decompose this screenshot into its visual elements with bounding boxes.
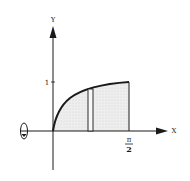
y-axis-arrow-icon — [50, 26, 57, 38]
x-tick-label-2: 2 — [126, 144, 132, 154]
x-axis-label: X — [172, 127, 177, 135]
diagram-canvas: Y X 1 π 2 — [0, 0, 190, 181]
y-tick-label-1: 1 — [45, 79, 49, 87]
x-tick-label-pi: π — [127, 136, 132, 144]
y-axis-label: Y — [50, 16, 56, 24]
strip — [88, 89, 93, 131]
x-axis-arrow-icon — [156, 128, 168, 135]
